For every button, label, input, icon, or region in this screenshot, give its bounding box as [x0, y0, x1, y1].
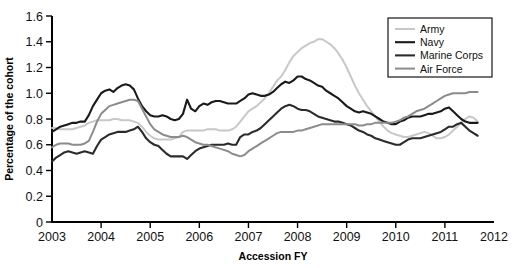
x-tick-label: 2004 [87, 230, 115, 244]
y-axis-ticks: 00.20.40.60.81.01.21.41.6 [26, 10, 52, 230]
chart-legend: ArmyNavyMarine CorpsAir Force [388, 18, 492, 77]
x-tick-label: 2007 [235, 230, 263, 244]
y-tick-label: 0.4 [26, 164, 43, 178]
x-axis-ticks: 2003200420052006200720082009201020112012 [38, 222, 508, 244]
x-tick-label: 2012 [480, 230, 508, 244]
x-tick-label: 2010 [382, 230, 410, 244]
legend-label-air-force: Air Force [420, 63, 463, 75]
x-tick-label: 2009 [333, 230, 361, 244]
x-tick-label: 2006 [185, 230, 213, 244]
x-tick-label: 2011 [431, 230, 458, 244]
x-tick-label: 2005 [136, 230, 164, 244]
x-axis-title: Accession FY [239, 250, 308, 262]
y-tick-label: 0 [36, 216, 43, 230]
legend-label-navy: Navy [420, 36, 445, 48]
y-tick-label: 1.6 [26, 10, 43, 24]
y-tick-label: 0.8 [26, 113, 43, 127]
legend-label-army: Army [420, 23, 445, 35]
chart-figure: 00.20.40.60.81.01.21.41.6 20032004200520… [0, 0, 515, 268]
y-axis-title: Percentage of the cohort [3, 57, 15, 181]
legend-label-marine-corps: Marine Corps [420, 49, 483, 61]
y-tick-label: 1.2 [26, 61, 43, 75]
y-tick-label: 1.0 [26, 87, 43, 101]
y-tick-label: 0.6 [26, 138, 43, 152]
line-chart: 00.20.40.60.81.01.21.41.6 20032004200520… [0, 0, 515, 268]
x-tick-label: 2008 [284, 230, 312, 244]
y-tick-label: 0.2 [26, 190, 43, 204]
x-tick-label: 2003 [38, 230, 66, 244]
y-tick-label: 1.4 [26, 35, 43, 49]
